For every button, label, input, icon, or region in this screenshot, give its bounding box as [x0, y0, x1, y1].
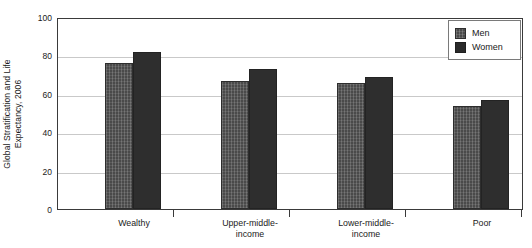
bar-women-wealthy: [133, 52, 161, 210]
x-category-wealthy-line-1: Wealthy: [89, 218, 179, 229]
x-category-lower-middle-income-line-2: income: [321, 229, 411, 240]
y-tick-label-40: 40: [28, 128, 52, 138]
bar-men-wealthy: [105, 63, 133, 209]
y-tick-label-100: 100: [28, 13, 52, 23]
legend-item-women: Women: [455, 40, 514, 54]
x-category-label-poor: Poor: [437, 218, 527, 229]
plot-area: Men Women: [57, 18, 523, 210]
x-category-upper-middle-income-line-1: Upper-middle-: [205, 218, 295, 229]
bar-men-lower-middle-income: [337, 83, 365, 210]
chart-figure: Global Stratification and Life Expectanc…: [0, 0, 532, 248]
bar-women-lower-middle-income: [365, 77, 393, 210]
bar-men-upper-middle-income: [221, 81, 249, 210]
legend-item-men: Men: [455, 26, 514, 40]
bar-men-poor: [453, 106, 481, 210]
x-category-label-lower-middle-income: Lower-middle- income: [321, 218, 411, 240]
y-axis-title: Global Stratification and Life Expectanc…: [0, 18, 26, 210]
x-category-poor-line-1: Poor: [437, 218, 527, 229]
x-tick-mark-3: [405, 210, 406, 217]
chart-legend: Men Women: [448, 20, 521, 60]
x-category-label-upper-middle-income: Upper-middle- income: [205, 218, 295, 240]
legend-swatch-men-icon: [455, 28, 466, 39]
y-axis-title-line-1: Global Stratification and Life: [2, 59, 13, 168]
x-category-label-wealthy: Wealthy: [89, 218, 179, 229]
y-tick-label-0: 0: [28, 205, 52, 215]
y-tick-label-80: 80: [28, 51, 52, 61]
x-tick-mark-1: [173, 210, 174, 217]
y-axis-title-line-2: Expectancy, 2006: [13, 59, 24, 168]
legend-label-women: Women: [472, 42, 503, 52]
x-category-upper-middle-income-line-2: income: [205, 229, 295, 240]
bar-women-upper-middle-income: [249, 69, 277, 209]
x-tick-mark-2: [289, 210, 290, 217]
y-tick-label-20: 20: [28, 167, 52, 177]
legend-label-men: Men: [472, 28, 490, 38]
x-tick-mark-4: [521, 210, 522, 217]
bar-women-poor: [481, 100, 509, 210]
legend-swatch-women-icon: [455, 42, 466, 53]
y-tick-label-60: 60: [28, 90, 52, 100]
x-category-lower-middle-income-line-1: Lower-middle-: [321, 218, 411, 229]
